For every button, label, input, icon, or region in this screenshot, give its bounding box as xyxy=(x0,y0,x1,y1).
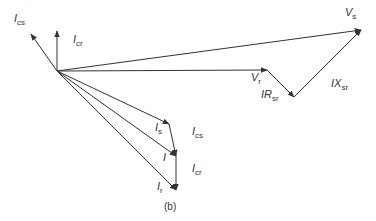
label-i: I xyxy=(163,151,166,163)
label-i-cs-bottom: Ics xyxy=(192,125,203,140)
label-i-r: Ir xyxy=(157,180,163,195)
vector-v-s xyxy=(57,30,361,71)
phasor-labels: IcsIcrVsVrIRsrIXsrIsIIrIcsIcr xyxy=(14,6,356,195)
vector-ix-sr xyxy=(294,30,361,97)
vector-v-r xyxy=(57,70,267,71)
label-v-s: Vs xyxy=(345,6,356,21)
label-i-cs-top: Ics xyxy=(14,12,25,27)
label-i-s: Is xyxy=(155,121,162,136)
phasor-diagram: IcsIcrVsVrIRsrIXsrIsIIrIcsIcr (b) xyxy=(0,0,376,221)
label-v-r: Vr xyxy=(251,71,261,86)
vector-i xyxy=(57,71,176,156)
phasor-vectors xyxy=(31,30,361,190)
label-ix-sr: IXsr xyxy=(331,77,348,92)
label-i-cr-top: Icr xyxy=(73,33,83,48)
vector-i-cs-top xyxy=(31,34,57,71)
label-i-cr-bottom: Icr xyxy=(192,162,202,177)
label-ir-sr: IRsr xyxy=(261,88,279,103)
vector-i-s xyxy=(57,71,169,124)
figure-caption: (b) xyxy=(164,201,176,212)
